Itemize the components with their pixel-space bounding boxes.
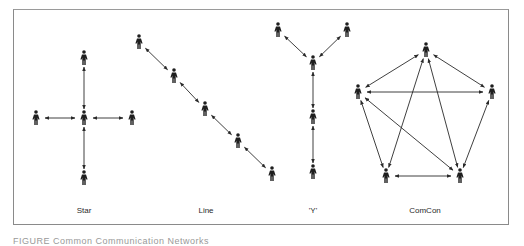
edge-arrow bbox=[463, 100, 489, 167]
person-icon bbox=[128, 110, 135, 125]
person-icon bbox=[170, 68, 177, 83]
figure-caption: FIGURE Common Communication Networks bbox=[13, 236, 209, 246]
edge-arrow bbox=[366, 55, 419, 88]
person-icon bbox=[32, 110, 39, 125]
person-icon bbox=[488, 84, 495, 99]
person-icon bbox=[234, 133, 241, 148]
label-comcon: ComCon bbox=[409, 206, 441, 215]
person-icon bbox=[80, 110, 87, 125]
label-y: 'Y' bbox=[309, 206, 317, 215]
person-icon bbox=[80, 170, 87, 185]
person-icon bbox=[456, 168, 463, 183]
edge-arrow bbox=[428, 59, 457, 168]
label-star: Star bbox=[77, 206, 92, 215]
edge-arrow bbox=[434, 55, 485, 87]
edge-arrow bbox=[319, 36, 340, 56]
person-icon bbox=[382, 168, 389, 183]
person-icon bbox=[268, 166, 275, 181]
person-icon bbox=[422, 42, 429, 57]
edge-arrow bbox=[361, 101, 383, 168]
person-icon bbox=[343, 22, 350, 37]
person-icon bbox=[309, 109, 316, 124]
edge-arrow bbox=[244, 147, 265, 167]
edge-arrow bbox=[211, 115, 231, 134]
edge-arrow bbox=[285, 36, 307, 57]
edge-arrow bbox=[145, 48, 167, 69]
network-edges bbox=[45, 36, 489, 176]
person-icon bbox=[309, 55, 316, 70]
edge-arrow bbox=[180, 83, 199, 103]
edge-arrow bbox=[365, 98, 453, 171]
person-icon bbox=[135, 34, 142, 49]
edge-arrow bbox=[389, 59, 424, 168]
person-icon bbox=[80, 50, 87, 65]
person-icon bbox=[201, 101, 208, 116]
person-icon bbox=[274, 22, 281, 37]
person-icon bbox=[309, 164, 316, 179]
network-nodes bbox=[32, 22, 495, 185]
label-line: Line bbox=[198, 206, 213, 215]
person-icon bbox=[354, 84, 361, 99]
